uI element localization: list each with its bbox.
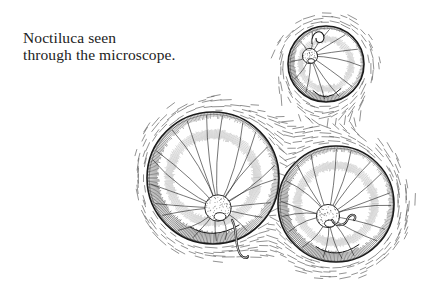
noctiluca-illustration	[0, 0, 442, 297]
cells-group	[147, 26, 394, 262]
top-cell	[288, 26, 364, 102]
left-cell	[147, 112, 279, 258]
right-cell	[278, 146, 394, 262]
